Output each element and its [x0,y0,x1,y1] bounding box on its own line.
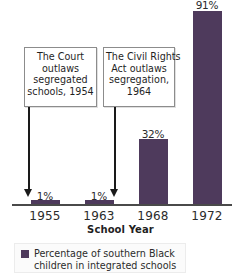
callout-line: segregated [27,74,94,86]
x-tick-label-1955: 1955 [18,209,72,223]
annotation-arrow-stem-civil-rights-act [114,107,116,190]
bar-1972 [193,11,222,204]
callout-line: 1964 [106,86,172,98]
x-tick-label-1972: 1972 [180,209,234,223]
legend-line-1: Percentage of southern Black [34,248,175,259]
x-axis-title: School Year [0,224,241,235]
x-tick-label-1968: 1968 [126,209,180,223]
legend-item: Percentage of southern Black children in… [21,248,181,271]
annotation-arrow-head-civil-rights-act [110,189,118,197]
x-axis-line [12,204,232,206]
bar-value-label-1972: 91% [187,0,227,11]
x-tick-label-1963: 1963 [72,209,126,223]
annotation-callout-brown-v-board: The Court outlaws segregated schools, 19… [24,47,97,107]
callout-line: outlaws [27,63,94,75]
bar-chart: 1% 1% 32% 91% The Court outlaws segregat… [0,0,241,275]
legend-swatch-icon [21,250,29,258]
plot-area: 1% 1% 32% 91% The Court outlaws segregat… [0,0,241,206]
callout-line: segregation, [106,74,172,86]
legend-line-2: children in integrated schools [34,260,176,271]
annotation-arrow-stem-brown-v-board [28,107,30,190]
callout-line: The Civil Rights [106,51,172,63]
callout-line: schools, 1954 [27,86,94,98]
bar-1968 [139,139,168,204]
annotation-arrow-head-brown-v-board [24,189,32,197]
chart-legend: Percentage of southern Black children in… [14,243,186,273]
callout-line: The Court [27,51,94,63]
annotation-callout-civil-rights-act: The Civil Rights Act outlaws segregation… [103,47,175,107]
callout-line: Act outlaws [106,63,172,75]
legend-item-label: Percentage of southern Black children in… [34,248,181,271]
